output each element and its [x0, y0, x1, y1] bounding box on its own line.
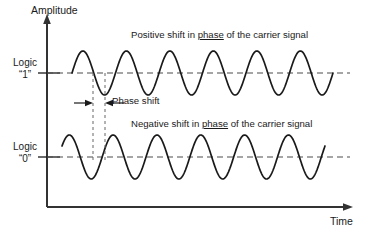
caption-negative-underlined: phase	[202, 118, 228, 129]
caption-negative-after: of the carrier signal	[228, 118, 312, 129]
logic-one-label: Logic “1”	[6, 58, 44, 80]
caption-positive-shift: Positive shift in phase of the carrier s…	[131, 30, 308, 40]
logic-one-label-line1: Logic	[13, 57, 37, 68]
logic-zero-label-line1: Logic	[13, 141, 37, 152]
caption-negative-before: Negative shift in	[131, 118, 202, 129]
phase-shift-annotation-label: Phase shift	[112, 96, 159, 106]
x-axis	[47, 203, 353, 211]
logic-zero-label: Logic “0”	[6, 142, 44, 164]
caption-positive-after: of the carrier signal	[224, 29, 308, 40]
x-axis-label: Time	[330, 216, 353, 227]
y-axis-label: Amplitude	[31, 5, 78, 16]
logic-zero-label-line2: “0”	[6, 154, 44, 165]
diagram-canvas: Amplitude Time Logic “1” Logic “0” Posit…	[0, 0, 368, 235]
logic-one-label-line2: “1”	[6, 70, 44, 81]
caption-positive-before: Positive shift in	[131, 29, 198, 40]
y-axis	[43, 14, 51, 207]
carrier-wave-logic-zero	[62, 135, 325, 179]
caption-negative-shift: Negative shift in phase of the carrier s…	[131, 119, 312, 129]
caption-positive-underlined: phase	[198, 29, 224, 40]
